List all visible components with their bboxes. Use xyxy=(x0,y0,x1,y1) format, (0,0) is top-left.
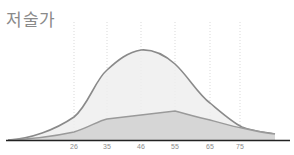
tick-label: 55 xyxy=(171,143,179,150)
tick-label: 35 xyxy=(103,143,111,150)
tick-label: 65 xyxy=(206,143,214,150)
area-chart: 26 35 46 55 65 75 xyxy=(0,0,294,155)
tick-label: 75 xyxy=(236,143,244,150)
tick-label: 26 xyxy=(70,143,78,150)
x-tick-labels: 26 35 46 55 65 75 xyxy=(70,143,244,150)
tick-label: 46 xyxy=(137,143,145,150)
